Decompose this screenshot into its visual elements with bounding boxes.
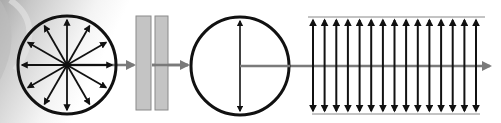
polarizer-plate-2 — [155, 16, 168, 110]
polarized-light-circle — [191, 17, 290, 115]
unpolarized-light-circle — [18, 16, 116, 114]
background-gradient — [0, 0, 200, 123]
diagram-canvas — [0, 0, 501, 123]
polarizer-plate-1 — [136, 16, 151, 110]
polarization-diagram — [0, 0, 501, 123]
